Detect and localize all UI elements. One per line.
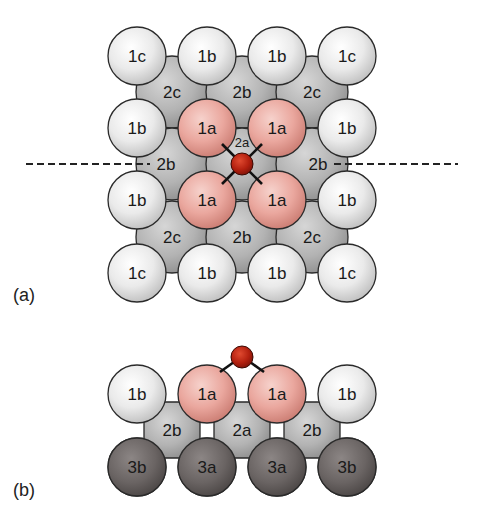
panel-b-layer2: 2b 2a 2b	[144, 402, 340, 458]
svg-text:1a: 1a	[198, 119, 217, 138]
atom-1b: 1b	[178, 27, 236, 85]
atom-1c: 1c	[108, 27, 166, 85]
atom-1c: 1c	[318, 27, 376, 85]
atom-1c: 1c	[108, 244, 166, 302]
svg-text:1a: 1a	[198, 191, 217, 210]
panel-a: 2c 2b 2c 2b 2a 2b 2c 2b 2c 1c 1b 1b 1c 1…	[13, 27, 458, 305]
svg-text:1c: 1c	[338, 47, 356, 66]
oxygen-atom-top	[231, 153, 253, 175]
atom-1b: 1b	[248, 27, 306, 85]
svg-text:2b: 2b	[233, 83, 252, 102]
svg-text:1b: 1b	[198, 264, 217, 283]
svg-text:1a: 1a	[268, 119, 287, 138]
svg-text:2b: 2b	[163, 421, 182, 440]
svg-text:1c: 1c	[128, 264, 146, 283]
svg-text:1c: 1c	[338, 264, 356, 283]
atom-1b: 1b	[318, 365, 376, 423]
panel-b-label: (b)	[13, 480, 35, 500]
svg-text:2b: 2b	[303, 421, 322, 440]
svg-text:2a: 2a	[235, 135, 250, 150]
surface-adsorption-diagram: 2c 2b 2c 2b 2a 2b 2c 2b 2c 1c 1b 1b 1c 1…	[0, 0, 479, 525]
atom-1b: 1b	[108, 171, 166, 229]
svg-text:2c: 2c	[163, 83, 181, 102]
svg-text:1a: 1a	[198, 385, 217, 404]
svg-text:1b: 1b	[128, 385, 147, 404]
atom-1b: 1b	[108, 365, 166, 423]
svg-text:2c: 2c	[303, 228, 321, 247]
atom-1b: 1b	[248, 244, 306, 302]
atom-1c: 1c	[318, 244, 376, 302]
svg-text:1b: 1b	[338, 191, 357, 210]
atom-1b: 1b	[178, 244, 236, 302]
svg-text:1a: 1a	[268, 191, 287, 210]
svg-text:3b: 3b	[338, 458, 357, 477]
svg-text:1b: 1b	[338, 119, 357, 138]
svg-text:3a: 3a	[268, 458, 287, 477]
svg-text:2b: 2b	[309, 155, 328, 174]
svg-text:1b: 1b	[128, 119, 147, 138]
svg-text:1b: 1b	[338, 385, 357, 404]
atom-1b: 1b	[318, 171, 376, 229]
svg-text:1b: 1b	[198, 47, 217, 66]
panel-b: 3b 3a 3a 3b 2b 2a 2b 3b 3a 3a 3b 1b 1a 1…	[13, 346, 376, 500]
svg-text:1b: 1b	[268, 47, 287, 66]
svg-text:2a: 2a	[233, 421, 252, 440]
oxygen-atom-side	[231, 346, 253, 368]
svg-text:1c: 1c	[128, 47, 146, 66]
svg-text:2c: 2c	[303, 83, 321, 102]
atom-1a: 1a	[178, 365, 236, 423]
atom-1a: 1a	[248, 365, 306, 423]
svg-text:1b: 1b	[128, 191, 147, 210]
svg-text:1a: 1a	[268, 385, 287, 404]
atom-1b: 1b	[318, 99, 376, 157]
svg-text:1b: 1b	[268, 264, 287, 283]
svg-text:3b: 3b	[128, 458, 147, 477]
svg-text:2b: 2b	[233, 228, 252, 247]
svg-text:2b: 2b	[157, 155, 176, 174]
atom-1b: 1b	[108, 99, 166, 157]
svg-text:2c: 2c	[163, 228, 181, 247]
panel-a-label: (a)	[13, 285, 35, 305]
svg-text:3a: 3a	[198, 458, 217, 477]
